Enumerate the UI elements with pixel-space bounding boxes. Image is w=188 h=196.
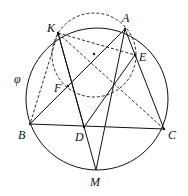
point-E-dot bbox=[134, 54, 136, 56]
segment-KD bbox=[58, 33, 84, 127]
point-D-dot bbox=[83, 126, 85, 128]
label-K: K bbox=[47, 22, 55, 34]
segment-AC bbox=[125, 29, 164, 129]
segment-AM bbox=[96, 29, 125, 170]
point-C-dot bbox=[163, 128, 165, 130]
point-A-dot bbox=[124, 28, 126, 30]
circumcircle bbox=[26, 28, 168, 170]
segment-BC bbox=[30, 124, 164, 129]
dashed-KC bbox=[58, 33, 164, 129]
label-B: B bbox=[18, 129, 25, 141]
geometry-diagram: K A E F φ B D C M bbox=[0, 0, 188, 196]
label-M: M bbox=[90, 176, 100, 188]
point-B-dot bbox=[29, 123, 31, 125]
point-F-dot bbox=[67, 85, 69, 87]
diagram-canvas bbox=[0, 0, 188, 196]
label-D: D bbox=[75, 131, 84, 143]
point-K-dot bbox=[57, 32, 59, 34]
center-dot bbox=[93, 53, 95, 55]
label-phi: φ bbox=[14, 73, 21, 85]
label-A: A bbox=[122, 12, 129, 24]
label-F: F bbox=[54, 82, 61, 94]
segment-DE bbox=[84, 55, 135, 127]
label-E: E bbox=[139, 51, 146, 63]
label-C: C bbox=[168, 129, 176, 141]
